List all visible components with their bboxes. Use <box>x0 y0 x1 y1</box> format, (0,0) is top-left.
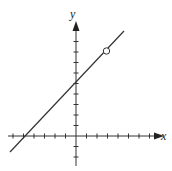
y-axis-arrow-icon <box>73 21 80 31</box>
open-circle-marker <box>103 48 109 54</box>
x-axis-label: x <box>160 129 167 143</box>
y-axis-label: y <box>69 7 76 21</box>
graph: x y <box>0 0 172 171</box>
